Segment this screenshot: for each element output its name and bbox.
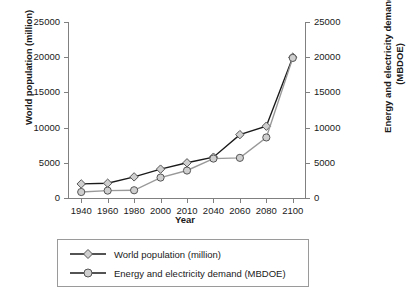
plot-area: 0500010000150002000025000 05000100001500…	[68, 22, 306, 198]
x-tick	[81, 199, 82, 203]
y-tick-right	[306, 163, 310, 164]
y-tick-right	[306, 92, 310, 93]
circle-marker-icon	[70, 267, 106, 279]
y-tick-label-right: 0	[314, 192, 358, 203]
y-tick-right	[306, 128, 310, 129]
x-tick	[240, 199, 241, 203]
data-point-marker	[289, 54, 296, 61]
y-tick-label-left: 15000	[16, 86, 60, 97]
x-tick	[266, 199, 267, 203]
legend-item-world-population: World population (million)	[70, 247, 221, 261]
y-axis-right-title-line2: (MBDOE)	[394, 0, 406, 149]
x-tick	[134, 199, 135, 203]
x-tick	[213, 199, 214, 203]
data-point-marker	[156, 165, 164, 173]
diamond-marker-icon	[70, 248, 106, 260]
data-point-marker	[130, 173, 138, 181]
data-point-marker	[263, 134, 270, 141]
y-tick-label-right: 25000	[314, 16, 358, 27]
y-tick-label-right: 15000	[314, 86, 358, 97]
y-axis-right-title: Energy and electricity demand (MBDOE)	[382, 0, 406, 149]
y-tick-right	[306, 57, 310, 58]
series-lines	[68, 22, 306, 199]
y-tick-label-left: 20000	[16, 51, 60, 62]
y-tick-label-left: 25000	[16, 16, 60, 27]
x-tick	[293, 199, 294, 203]
legend-label-0: World population (million)	[114, 249, 221, 260]
y-tick-label-right: 5000	[314, 157, 358, 168]
legend-label-1: Energy and electricity demand (MBDOE)	[114, 268, 286, 279]
x-tick	[187, 199, 188, 203]
data-point-marker	[210, 155, 217, 162]
y-tick-label-left: 10000	[16, 122, 60, 133]
y-tick-label-right: 20000	[314, 51, 358, 62]
data-point-marker	[103, 179, 111, 187]
x-tick-label: 2100	[273, 205, 313, 216]
y-tick-label-left: 5000	[16, 157, 60, 168]
x-tick	[108, 199, 109, 203]
data-point-marker	[157, 174, 164, 181]
x-tick	[161, 199, 162, 203]
data-point-marker	[236, 154, 243, 161]
y-tick-label-left: 0	[16, 192, 60, 203]
data-point-marker	[77, 180, 85, 188]
data-point-marker	[183, 159, 191, 167]
data-point-marker	[183, 167, 190, 174]
y-tick-right	[306, 22, 310, 23]
data-point-marker	[78, 188, 85, 195]
y-tick-right	[306, 198, 310, 199]
y-tick-label-right: 10000	[314, 122, 358, 133]
legend-item-energy-demand: Energy and electricity demand (MBDOE)	[70, 266, 286, 280]
chart-legend: World population (million) Energy and el…	[57, 239, 309, 287]
data-point-marker	[104, 187, 111, 194]
y-axis-right-title-line1: Energy and electricity demand	[382, 0, 394, 149]
data-point-marker	[131, 187, 138, 194]
